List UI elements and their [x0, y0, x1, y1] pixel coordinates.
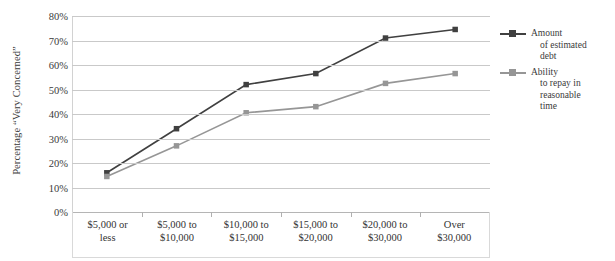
y-axis-tick-label: 30%	[49, 133, 68, 144]
gridline	[72, 188, 490, 189]
y-axis-tick-label: 40%	[49, 109, 68, 120]
gridline	[72, 114, 490, 115]
gridline	[72, 139, 490, 140]
y-axis-tick-label: 10%	[49, 182, 68, 193]
y-axis-tick-label: 60%	[49, 60, 68, 71]
y-axis-tick-labels: 0%10%20%30%40%50%60%70%80%	[26, 0, 68, 261]
data-point-marker	[452, 27, 458, 33]
legend-key-icon	[500, 72, 526, 74]
y-axis-tick-label: 80%	[49, 11, 68, 22]
gridline	[72, 16, 490, 17]
chart-legend: Amountof estimateddebtAbilityto repay in…	[500, 28, 612, 117]
x-axis-category-5: Over$30,000	[420, 212, 489, 257]
x-axis-category-label: $10,000 to$15,000	[224, 218, 269, 244]
gridline	[72, 163, 490, 164]
chart-figure: Percentage “Very Concerned” 0%10%20%30%4…	[0, 0, 615, 261]
legend-item-1[interactable]: Abilityto repay inreasonabletime	[500, 67, 612, 113]
legend-key-icon	[500, 33, 526, 35]
x-axis-category-label: $5,000 to$10,000	[157, 218, 197, 244]
data-point-marker	[243, 82, 249, 88]
legend-label: Abilityto repay inreasonabletime	[531, 67, 612, 113]
data-point-marker	[313, 71, 319, 77]
x-axis-category-label: $5,000 orless	[88, 218, 128, 244]
y-axis-tick-label: 50%	[49, 84, 68, 95]
y-axis-tick-label: 20%	[49, 158, 68, 169]
y-axis-title: Percentage “Very Concerned”	[11, 11, 22, 211]
plot-area	[72, 16, 490, 212]
data-point-marker	[104, 174, 110, 180]
gridline	[72, 90, 490, 91]
x-axis-category-label: $15,000 to$20,000	[293, 218, 338, 244]
x-axis-category-4: $20,000 to$30,000	[350, 212, 419, 257]
gridline	[72, 41, 490, 42]
x-axis-category-labels: $5,000 orless$5,000 to$10,000$10,000 to$…	[72, 212, 490, 258]
data-point-marker	[174, 126, 180, 132]
data-point-marker	[313, 104, 319, 110]
x-axis-category-1: $5,000 to$10,000	[142, 212, 211, 257]
x-axis-category-label: $20,000 to$30,000	[363, 218, 408, 244]
data-point-marker	[452, 71, 458, 77]
series-line-0	[107, 29, 455, 172]
x-axis-category-0: $5,000 orless	[73, 212, 142, 257]
x-axis-category-label: Over$30,000	[437, 218, 471, 244]
data-point-marker	[383, 81, 389, 87]
x-axis-category-3: $15,000 to$20,000	[281, 212, 350, 257]
y-axis-tick-label: 0%	[54, 207, 68, 218]
legend-label: Amountof estimateddebt	[531, 28, 612, 63]
x-axis-category-2: $10,000 to$15,000	[212, 212, 281, 257]
legend-item-0[interactable]: Amountof estimateddebt	[500, 28, 612, 63]
gridline	[72, 65, 490, 66]
data-point-marker	[174, 143, 180, 149]
y-axis-tick-label: 70%	[49, 35, 68, 46]
